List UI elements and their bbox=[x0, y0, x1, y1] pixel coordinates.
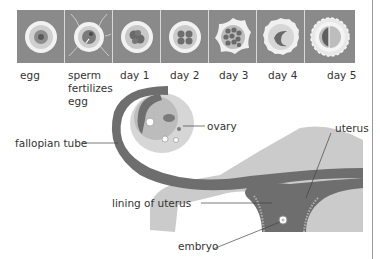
label-lining-of-uterus: lining of uterus bbox=[112, 197, 191, 209]
page-divider bbox=[372, 0, 373, 259]
label-embryo: embryo bbox=[178, 240, 218, 252]
label-fallopian-tube: fallopian tube bbox=[15, 137, 87, 149]
label-uterus: uterus bbox=[335, 122, 369, 134]
reproductive-anatomy-illustration bbox=[0, 0, 380, 259]
label-ovary: ovary bbox=[207, 120, 237, 132]
